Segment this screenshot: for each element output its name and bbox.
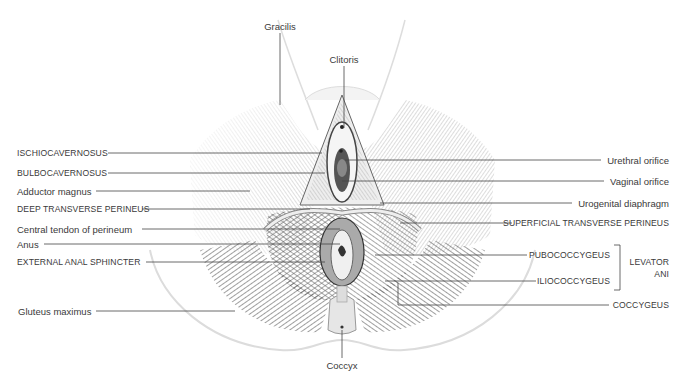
label-anus: Anus — [17, 239, 39, 250]
label-pubococcygeus: PUBOCOCCYGEUS — [529, 250, 610, 261]
label-urethral-orifice: Urethral orifice — [607, 155, 669, 166]
label-deep-transverse-perineus: DEEP TRANSVERSE PERINEUS — [17, 204, 149, 215]
label-iliococcygeus: ILIOCOCCYGEUS — [537, 276, 610, 287]
label-clitoris: Clitoris — [324, 54, 364, 65]
label-gracilis: Gracilis — [262, 21, 298, 32]
label-urogenital-diaphragm: Urogenital diaphragm — [578, 198, 669, 209]
perineum-diagram: Gracilis Clitoris ISCHIOCAVERNOSUS BULBO… — [0, 0, 685, 384]
label-coccygeus: COCCYGEUS — [613, 300, 669, 311]
label-superficial-transverse-perineus: SUPERFICIAL TRANSVERSE PERINEUS — [503, 218, 669, 229]
label-levator-ani-line1: LEVATOR — [630, 257, 669, 268]
label-coccyx: Coccyx — [322, 360, 362, 371]
label-ischiocavernosus: ISCHIOCAVERNOSUS — [17, 148, 108, 159]
label-levator-ani-line2: ANI — [654, 269, 669, 280]
label-central-tendon: Central tendon of perineum — [17, 224, 132, 235]
label-gluteus-maximus: Gluteus maximus — [18, 306, 91, 317]
label-bulbocavernosus: BULBOCAVERNOSUS — [17, 168, 107, 179]
label-external-anal-sphincter: EXTERNAL ANAL SPHINCTER — [17, 257, 140, 268]
label-vaginal-orifice: Vaginal orifice — [610, 176, 669, 187]
label-adductor-magnus: Adductor magnus — [17, 186, 91, 197]
